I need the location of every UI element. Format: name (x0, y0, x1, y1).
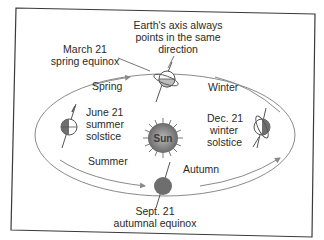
season-autumn: Autumn (183, 163, 219, 175)
axis-note-line-2: points in the same (135, 31, 220, 43)
label-dec-date: Dec. 21 (207, 112, 243, 124)
sun-label: Sun (154, 133, 173, 144)
label-june-date: June 21 (86, 106, 124, 118)
label-sept-event: autumnal equinox (114, 217, 198, 229)
label-dec-event-2: solstice (207, 136, 242, 148)
earth-sept-icon (154, 162, 172, 208)
label-march-date: March 21 (63, 43, 107, 55)
label-june-event-2: solstice (86, 130, 121, 142)
earth-june-icon (61, 104, 77, 148)
label-sept-date: Sept. 21 (135, 205, 174, 217)
label-dec-event-1: winter (209, 124, 239, 136)
season-winter: Winter (208, 81, 239, 93)
axis-note-pointer (168, 56, 174, 68)
earth-orbit-diagram: Sun Earth's axis always points in the sa… (0, 0, 324, 240)
label-march-event: spring equinox (51, 55, 120, 67)
axis-note-line-1: Earth's axis always (134, 19, 223, 31)
axis-note-line-3: direction (158, 43, 198, 55)
earth-dec-icon (253, 108, 271, 148)
earth-march-icon (118, 58, 180, 102)
season-summer: Summer (88, 155, 128, 167)
season-spring: Spring (92, 80, 123, 92)
pointer-march (118, 58, 150, 71)
label-june-event-1: summer (86, 118, 124, 130)
